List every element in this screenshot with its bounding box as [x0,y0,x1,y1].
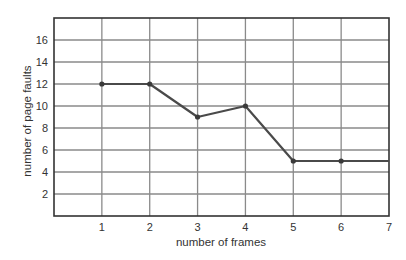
data-point-marker [291,158,296,163]
y-tick-label: 4 [42,166,48,178]
y-tick-label: 12 [36,78,48,90]
data-point-marker [243,103,248,108]
y-tick-label: 6 [42,144,48,156]
y-axis-label: number of page faults [21,65,33,176]
y-tick-label: 10 [36,100,48,112]
x-tick-label: 7 [386,221,392,233]
data-point-marker [147,81,152,86]
data-point-markers [99,81,343,163]
x-axis-label: number of frames [176,236,266,248]
x-tick-label: 4 [242,221,248,233]
data-point-marker [339,158,344,163]
x-tick-label: 1 [99,221,105,233]
data-point-marker [99,81,104,86]
y-tick-label: 16 [36,34,48,46]
x-tick-label: 5 [290,221,296,233]
x-tick-label: 2 [147,221,153,233]
data-point-marker [195,114,200,119]
x-tick-label: 6 [338,221,344,233]
y-tick-label: 14 [36,56,48,68]
x-tick-label: 3 [195,221,201,233]
line-chart: 246810121416 1234567 number of frames nu… [0,0,406,260]
plot-frame [54,18,389,216]
y-tick-label: 2 [42,188,48,200]
grid-lines [54,18,389,216]
y-tick-label: 8 [42,122,48,134]
x-axis-ticks: 1234567 [99,221,392,233]
y-axis-ticks: 246810121416 [36,34,48,200]
